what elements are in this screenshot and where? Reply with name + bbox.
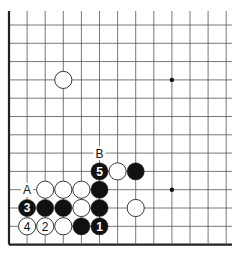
move-number: 2: [42, 220, 49, 234]
white-stone: [73, 199, 90, 216]
go-board: AB 53421: [0, 0, 239, 257]
move-number: 1: [96, 220, 103, 234]
white-stone: [73, 181, 90, 198]
point-label-a: A: [23, 183, 31, 197]
black-stone: [91, 181, 108, 198]
white-stone: [55, 71, 72, 88]
white-stone: [55, 181, 72, 198]
black-stone: [127, 163, 144, 180]
white-stone: [127, 199, 144, 216]
point-label-b: B: [95, 147, 103, 161]
black-stone: [73, 218, 90, 235]
star-point: [170, 188, 174, 192]
white-stone: [109, 163, 126, 180]
move-number: 3: [24, 201, 31, 215]
black-stone: [37, 199, 54, 216]
white-stone: [37, 181, 54, 198]
black-stone: [91, 199, 108, 216]
star-point: [170, 78, 174, 82]
move-number: 4: [24, 220, 31, 234]
black-stone: [55, 199, 72, 216]
white-stone: [55, 218, 72, 235]
move-number: 5: [96, 165, 103, 179]
